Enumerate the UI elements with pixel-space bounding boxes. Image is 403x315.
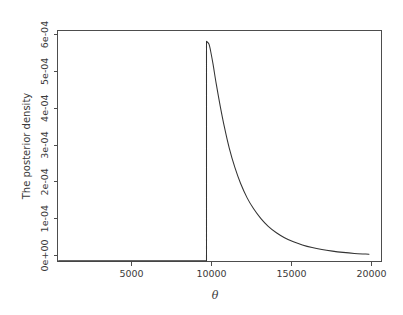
- density-curve: [59, 41, 369, 260]
- x-axis-tick-labels: 5000 10000 15000 20000: [119, 268, 386, 279]
- y-tick-label: 3e-04: [39, 131, 50, 158]
- x-tick-label: 20000: [356, 268, 386, 279]
- posterior-density-figure: 6e-04 5e-04 4e-04 3e-04 2e-04 1e-04 0e+0…: [0, 0, 403, 315]
- y-tick-label: 1e-04: [39, 205, 50, 232]
- chart-canvas: 6e-04 5e-04 4e-04 3e-04 2e-04 1e-04 0e+0…: [0, 0, 403, 315]
- x-axis-title: θ: [212, 289, 219, 302]
- y-axis-ticks: [54, 35, 58, 256]
- y-tick-label: 6e-04: [39, 21, 50, 48]
- y-tick-label: 2e-04: [39, 168, 50, 195]
- y-tick-label: 4e-04: [39, 94, 50, 121]
- x-tick-label: 15000: [276, 268, 306, 279]
- y-tick-label: 0e+00: [39, 240, 50, 272]
- x-tick-label: 10000: [196, 268, 226, 279]
- plot-frame-box: [58, 31, 382, 262]
- y-axis-title: The posterior density: [21, 93, 32, 201]
- y-axis-tick-labels: 6e-04 5e-04 4e-04 3e-04 2e-04 1e-04 0e+0…: [39, 21, 50, 272]
- x-axis-ticks: [132, 262, 372, 266]
- x-tick-label: 5000: [119, 268, 143, 279]
- y-tick-label: 5e-04: [39, 58, 50, 85]
